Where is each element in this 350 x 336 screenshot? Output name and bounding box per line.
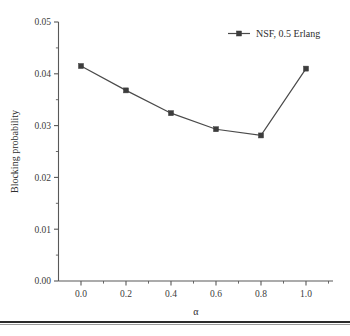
y-tick-labels: 0.000.010.020.030.040.05 <box>34 17 51 286</box>
x-tick-labels: 0.00.20.40.60.81.0 <box>75 289 312 299</box>
data-point-marker <box>214 127 219 132</box>
footer-divider-secondary <box>0 324 350 325</box>
chart-plot-area: 0.000.010.020.030.040.05 0.00.20.40.60.8… <box>0 0 350 336</box>
x-tick-label: 0.2 <box>120 289 132 299</box>
footer-divider <box>0 321 350 323</box>
line-chart-svg: 0.000.010.020.030.040.05 0.00.20.40.60.8… <box>0 0 350 336</box>
y-tick-label: 0.02 <box>34 173 51 183</box>
figure-container: 0.000.010.020.030.040.05 0.00.20.40.60.8… <box>0 0 350 336</box>
data-point-marker <box>124 88 129 93</box>
x-axis-title: α <box>193 306 199 317</box>
data-point-marker <box>169 111 174 116</box>
data-series-nsf-05-erlang <box>79 64 309 138</box>
x-tick-label: 0.6 <box>210 289 222 299</box>
legend-marker-swatch <box>237 31 242 36</box>
data-point-marker <box>79 64 84 69</box>
y-tick-label: 0.00 <box>34 276 51 286</box>
y-tick-label: 0.03 <box>34 121 51 131</box>
chart-legend: NSF, 0.5 Erlang <box>228 28 320 39</box>
data-point-marker <box>259 133 264 138</box>
y-tick-label: 0.04 <box>34 69 51 79</box>
legend-entry-label: NSF, 0.5 Erlang <box>256 28 320 39</box>
y-axis <box>54 22 59 281</box>
x-tick-label: 0.0 <box>75 289 87 299</box>
y-tick-label: 0.01 <box>34 225 51 235</box>
x-tick-label: 0.8 <box>255 289 267 299</box>
y-tick-label: 0.05 <box>34 17 51 27</box>
x-axis <box>59 281 334 286</box>
series-polyline <box>81 66 306 135</box>
data-point-marker <box>304 66 309 71</box>
x-tick-label: 1.0 <box>300 289 312 299</box>
x-tick-label: 0.4 <box>165 289 177 299</box>
y-axis-title: Blocking probability <box>9 110 20 193</box>
